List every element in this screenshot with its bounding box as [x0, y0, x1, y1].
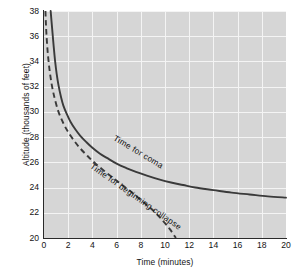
x-tick-label: 4	[80, 241, 104, 250]
x-tick-label: 2	[56, 241, 80, 250]
x-tick-label: 6	[105, 241, 129, 250]
curve-layer	[44, 11, 286, 238]
x-tick-label: 16	[226, 241, 250, 250]
x-axis-title: Time (minutes)	[44, 258, 286, 267]
chart-figure: Time for coma Time for beginning collaps…	[0, 0, 295, 275]
x-tick-label: 0	[32, 241, 56, 250]
y-axis-spine	[43, 10, 44, 239]
x-tick-label: 14	[201, 241, 225, 250]
plot-area: Time for coma Time for beginning collaps…	[44, 11, 286, 238]
y-tick-label: 38	[18, 7, 39, 16]
y-axis-title: Altitude (thousands of feet)	[22, 35, 31, 195]
series-line-time-for-coma	[51, 11, 286, 198]
x-tick-label: 20	[274, 241, 295, 250]
x-tick-label: 10	[153, 241, 177, 250]
x-tick-label: 12	[177, 241, 201, 250]
y-tick-label: 22	[18, 208, 39, 217]
x-tick-label: 18	[250, 241, 274, 250]
x-tick-label: 8	[129, 241, 153, 250]
